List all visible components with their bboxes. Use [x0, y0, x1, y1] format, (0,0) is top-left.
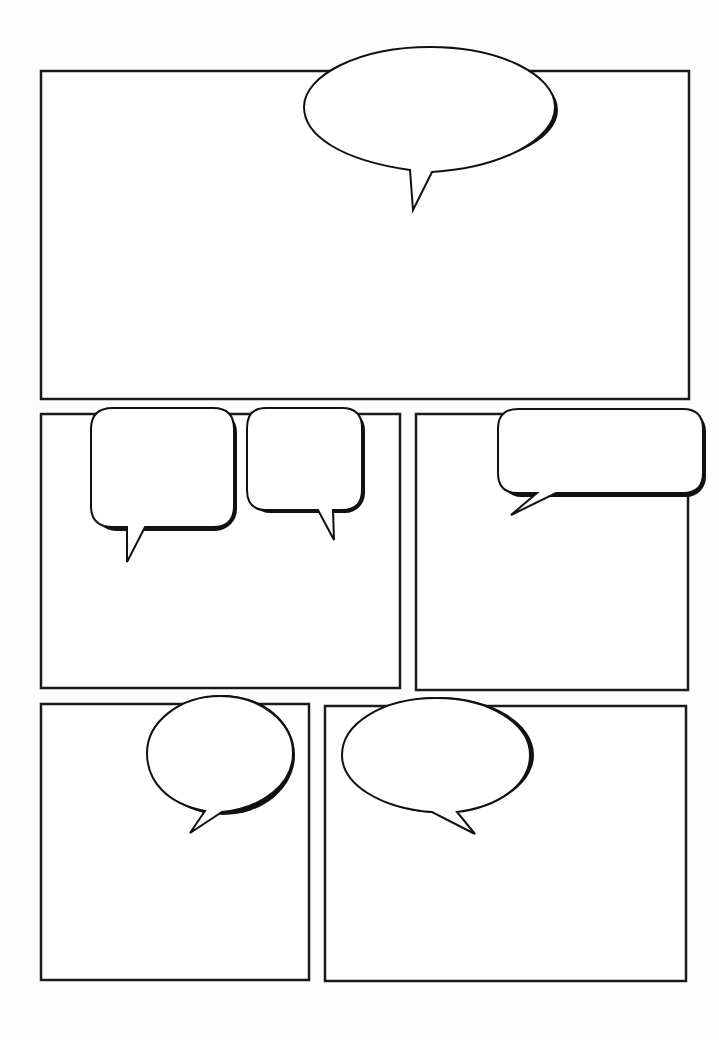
comic-canvas: [0, 0, 719, 1040]
comic-page-template: [0, 0, 719, 1040]
